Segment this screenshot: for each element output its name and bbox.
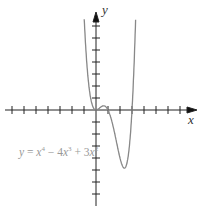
axes xyxy=(5,12,197,206)
x-axis-label: x xyxy=(188,112,194,128)
equation-label: y = x4 − 4x3 + 3x2 xyxy=(19,145,98,158)
function-plot xyxy=(0,0,207,220)
y-axis-label: y xyxy=(102,2,108,18)
axis-arrowheads xyxy=(93,12,197,113)
